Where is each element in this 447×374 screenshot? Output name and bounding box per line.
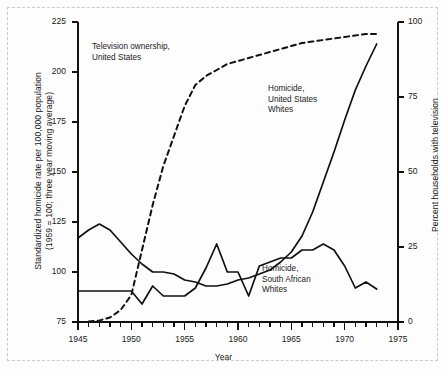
y-tick-label-left: 125 bbox=[36, 216, 66, 226]
series-line-1 bbox=[78, 244, 377, 304]
x-axis-title: Year bbox=[0, 352, 447, 362]
x-tick-label: 1950 bbox=[111, 334, 151, 344]
x-tick-label: 1960 bbox=[218, 334, 258, 344]
y-tick-label-left: 150 bbox=[36, 166, 66, 176]
chart-figure: Standardized homicide rate per 100,000 p… bbox=[0, 0, 447, 374]
y-tick-label-right: 25 bbox=[408, 241, 438, 251]
chart-plot-area bbox=[0, 0, 447, 374]
x-tick-label: 1965 bbox=[271, 334, 311, 344]
y-tick-label-right: 75 bbox=[408, 91, 438, 101]
y-tick-label-left: 100 bbox=[36, 266, 66, 276]
y-tick-label-right: 0 bbox=[408, 316, 438, 326]
x-tick-label: 1970 bbox=[325, 334, 365, 344]
y-tick-label-left: 175 bbox=[36, 116, 66, 126]
x-tick-label: 1975 bbox=[378, 334, 418, 344]
homicide-us-whites-label: Homicide, United States Whites bbox=[268, 84, 317, 116]
television-ownership-label: Television ownership, United States bbox=[92, 42, 170, 63]
y-tick-label-left: 75 bbox=[36, 316, 66, 326]
x-tick-label: 1945 bbox=[58, 334, 98, 344]
y-tick-label-left: 225 bbox=[36, 16, 66, 26]
series-line-2 bbox=[89, 34, 377, 321]
data-series-group bbox=[78, 34, 377, 321]
y-tick-label-right: 50 bbox=[408, 166, 438, 176]
homicide-sa-whites-label: Homicide, South African Whites bbox=[262, 264, 311, 296]
y-axis-right-title: Percent households with television bbox=[430, 35, 440, 295]
y-tick-label-left: 200 bbox=[36, 66, 66, 76]
y-tick-label-right: 100 bbox=[408, 16, 438, 26]
x-tick-label: 1955 bbox=[165, 334, 205, 344]
